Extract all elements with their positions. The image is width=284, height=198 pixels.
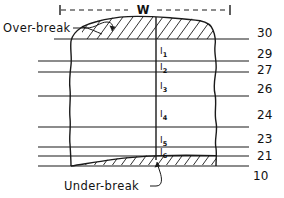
axis-value-23: 23: [257, 132, 272, 146]
axis-value-24: 24: [257, 108, 272, 122]
cross-section-diagram: W: [0, 0, 284, 198]
right-profile-edge: [213, 30, 217, 166]
axis-value-10: 10: [253, 169, 268, 183]
under-break-hatch: [70, 149, 232, 174]
axis-value-29: 29: [257, 47, 272, 61]
over-break-label: Over-break: [3, 21, 71, 35]
under-break-zone: [70, 149, 232, 174]
segment-label-l4: l4: [160, 108, 168, 122]
axis-value-30: 30: [257, 26, 272, 40]
segment-labels: l1 l2 l3 l4 l5 l6: [160, 45, 168, 160]
right-axis-values: 30 29 27 26 24 23 21 10: [253, 26, 272, 183]
figure-canvas: W: [0, 0, 284, 198]
axis-value-21: 21: [257, 149, 272, 163]
axis-value-27: 27: [257, 63, 272, 77]
segment-label-l6: l6: [160, 146, 168, 160]
dimension-label-w: W: [137, 3, 150, 17]
axis-value-26: 26: [257, 82, 272, 96]
segment-label-l1: l1: [160, 45, 168, 59]
under-break-callout: Under-break: [64, 162, 161, 193]
width-dimension: W: [60, 3, 230, 17]
segment-label-l3: l3: [160, 80, 167, 94]
under-break-label: Under-break: [64, 179, 139, 193]
